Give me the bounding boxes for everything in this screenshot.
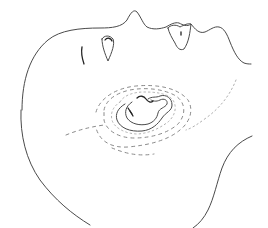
marking-incision-right bbox=[186, 80, 236, 130]
illustration-canvas bbox=[0, 0, 268, 228]
nostril-right bbox=[168, 24, 191, 50]
ear-canal-mark bbox=[128, 108, 132, 114]
head-drawing bbox=[0, 0, 268, 228]
head-profile-contour bbox=[22, 11, 251, 110]
jaw-contour bbox=[193, 136, 252, 228]
marking-inner-dotted bbox=[111, 92, 175, 134]
ear-helix-detail bbox=[137, 96, 153, 102]
ear-inner bbox=[126, 99, 168, 125]
nostril-left-inner bbox=[105, 38, 112, 41]
marking-incision-left bbox=[66, 125, 104, 135]
eye-mark bbox=[82, 47, 84, 64]
ear-outer bbox=[116, 95, 172, 131]
face-lower-contour bbox=[21, 110, 90, 225]
marking-outer-dashed bbox=[96, 86, 191, 148]
marking-incision-lower bbox=[112, 148, 154, 155]
